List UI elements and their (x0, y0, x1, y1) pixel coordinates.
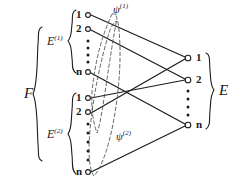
label-right-index-2: 2 (196, 74, 202, 85)
label-group-E: E (219, 83, 228, 98)
node-left-2-1[interactable] (86, 96, 91, 101)
label-left-block1-index-1: 1 (76, 9, 82, 20)
node-right-1[interactable] (185, 55, 191, 61)
brace-F (33, 27, 42, 161)
ellipsis-left-block1 (87, 40, 90, 64)
label-psi-2: ψ(2) (116, 130, 131, 142)
edge-L1-2-to-R-2 (91, 30, 185, 79)
label-psi-1-base: ψ (113, 3, 120, 15)
edge-L1-1-to-R-1 (91, 15, 185, 57)
label-right-index-1: 1 (196, 52, 202, 63)
node-right-2[interactable] (185, 77, 191, 83)
node-right-n[interactable] (185, 122, 191, 128)
label-psi-2-superscript: (2) (123, 129, 131, 137)
node-left-2-n[interactable] (86, 170, 91, 175)
brace-E1 (68, 10, 76, 73)
node-left-2-2[interactable] (86, 110, 91, 115)
label-psi-1-superscript: (1) (120, 2, 128, 10)
edge-L2-n-to-R-n (91, 126, 185, 172)
brace-E (206, 53, 214, 129)
label-left-block2-index-1: 1 (76, 92, 82, 103)
label-group-F: F (24, 86, 33, 101)
label-psi-2-base: ψ (116, 130, 123, 142)
label-subset-E2: E(2) (47, 128, 63, 140)
label-left-block1-index-2: 2 (76, 23, 82, 34)
node-group-left-block1 (86, 13, 91, 75)
psi-1-curve (92, 14, 117, 133)
brace-E2 (68, 93, 76, 174)
edge-L1-n-to-R-n (91, 73, 185, 124)
label-subset-E2-superscript: (2) (54, 127, 62, 135)
label-psi-1: ψ(1) (113, 3, 128, 15)
mapping-diagram (0, 0, 246, 190)
node-left-1-2[interactable] (86, 27, 91, 32)
label-left-block1-index-n: n (76, 66, 82, 77)
ellipsis-right (187, 90, 190, 117)
node-left-1-n[interactable] (86, 70, 91, 75)
label-right-index-n: n (196, 119, 202, 130)
label-subset-E1: E(1) (47, 35, 63, 47)
label-subset-E1-superscript: (1) (54, 34, 62, 42)
edge-group (91, 15, 185, 172)
edge-L2-2-to-R-1 (91, 59, 185, 113)
label-left-block2-index-2: 2 (76, 106, 82, 117)
label-left-block2-index-n: n (76, 166, 82, 177)
node-left-1-1[interactable] (86, 13, 91, 18)
